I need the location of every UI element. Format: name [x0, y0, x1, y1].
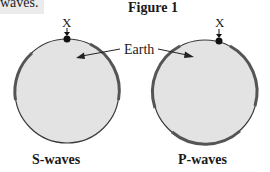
s-waves-earth — [15, 28, 120, 143]
point-x-left-icon — [64, 36, 71, 43]
point-x-label-right: X — [215, 16, 224, 30]
p-waves-earth — [152, 29, 257, 144]
point-x-right-icon — [216, 38, 223, 45]
arrow-x-left-head-icon — [64, 32, 70, 36]
s-waves-caption: S-waves — [32, 152, 80, 168]
earth-label: Earth — [124, 43, 154, 57]
arrow-x-right-head-icon — [216, 34, 222, 38]
point-x-label-left: X — [62, 16, 71, 30]
earth-wave-diagram — [0, 0, 270, 172]
p-waves-caption: P-waves — [178, 152, 227, 168]
